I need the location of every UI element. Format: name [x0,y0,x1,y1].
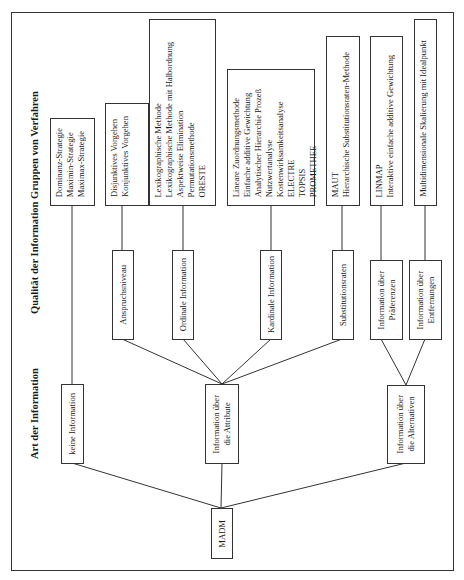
header-kind: Art der Information [29,373,41,459]
node-aspiration: Anspruchsniveau [112,250,134,340]
method-item: ORESTE [197,42,208,197]
node-substitution: Substitutionsraten [332,250,354,340]
node-ordinal: Ordinale Information [172,250,194,340]
method-item: ELECTRE [286,89,297,197]
node-madm: MADM [211,508,233,559]
node-cardinal: Kardinale Information [260,250,282,340]
method-item: Konjunktives Vorgehen [120,116,131,197]
method-item: Lexikographische Methode [153,42,164,197]
method-item: LINMAP [374,55,385,197]
methods-ordinal: Lexikographische Methode Lexikographisch… [149,19,216,206]
methods-distances: Multidimensionale Skalierung mit Idealpu… [414,19,437,206]
method-item: Aspektweise Elimination [175,42,186,197]
node-no-information: keine Information [61,384,84,464]
method-item: TOPSIS [297,89,308,197]
method-item: Einfache additive Gewichtung [242,89,253,197]
method-item: Lineare Zuordnungsmethode [231,89,242,197]
header-groups: Gruppen von Verfahren [29,85,41,199]
node-alternatives: Information über die Alternativen [387,385,425,464]
method-item: Interaktive einfache additive Gewichtung [385,55,396,197]
method-item: PROMETHEE [308,89,319,197]
method-item: Multidimensionale Skalierung mit Idealpu… [418,40,429,197]
method-item: Kostenwirksamkeitsanalyse [275,89,286,197]
method-item: Analytischer Hierarchie Prozeß [253,89,264,197]
method-item: Permutationsmethode [186,42,197,197]
method-item: Dominanz-Strategie [54,128,65,197]
methods-aspiration: Disjunktives Vorgehen Konjunktives Vorge… [105,103,149,206]
methods-cardinal: Lineare Zuordnungsmethode Einfache addit… [227,69,315,206]
node-preferences: Information über Präferenzen [370,260,403,340]
methods-no-info: Dominanz-Strategie Maximin-Strategie Max… [50,118,95,206]
header-quality: Qualität der Information [29,228,41,314]
method-item: Disjunktives Vorgehen [109,116,120,197]
method-item: MAUT [330,52,341,197]
method-item: Hierarchische Substitutionsraten-Methode [341,52,352,197]
node-distances: Information über Entfernungen [409,260,442,340]
methods-substitution: MAUT Hierarchische Substitutionsraten-Me… [326,36,360,206]
methods-preferences: LINMAP Interaktive einfache additive Gew… [370,36,403,206]
method-item: Maximin-Strategie [65,128,76,197]
method-item: Maximax-Strategie [76,128,87,197]
node-attributes: Information über die Attribute [205,384,239,464]
method-item: Lexikographische Methode mit Halbordnung [164,42,175,197]
method-item: Nutzwertanalyse [264,89,275,197]
